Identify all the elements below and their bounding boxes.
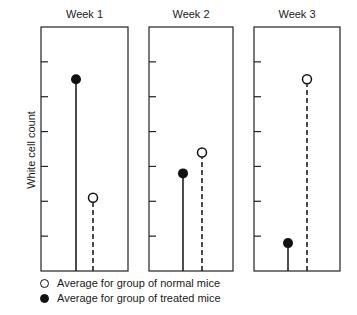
treated-marker <box>178 168 188 178</box>
legend-label-treated: Average for group of treated mice <box>57 292 221 305</box>
panel-title: Week 3 <box>278 8 315 20</box>
normal-marker <box>89 193 98 202</box>
panel-week-2: Week 2 <box>149 8 233 271</box>
normal-marker <box>303 75 312 84</box>
y-axis-label: White cell count <box>25 111 37 189</box>
treated-marker <box>71 74 81 84</box>
treated-marker <box>283 238 293 248</box>
open-circle-icon <box>40 279 49 288</box>
white-cell-count-chart: White cell count Week 1Week 2Week 3 <box>0 0 357 315</box>
panel-week-1: Week 1 <box>41 8 128 271</box>
legend-item-treated: Average for group of treated mice <box>38 291 221 306</box>
panel-frame <box>149 27 233 271</box>
legend: Average for group of normal mice Average… <box>38 276 221 306</box>
normal-marker <box>198 148 207 157</box>
panel-week-3: Week 3 <box>254 8 340 271</box>
panel-title: Week 1 <box>66 8 103 20</box>
panel-frame <box>254 27 340 271</box>
panels: Week 1Week 2Week 3 <box>41 8 340 271</box>
legend-label-normal: Average for group of normal mice <box>57 277 220 290</box>
filled-circle-icon <box>40 294 49 303</box>
panel-title: Week 2 <box>172 8 209 20</box>
legend-item-normal: Average for group of normal mice <box>38 276 221 291</box>
panel-frame <box>41 27 128 271</box>
